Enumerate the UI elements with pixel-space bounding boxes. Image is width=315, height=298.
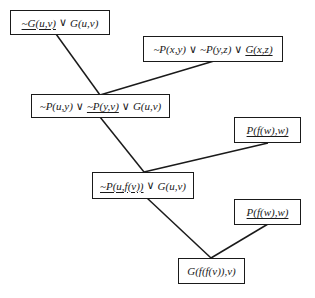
clause-literal: ~P(u,y) [40, 100, 73, 112]
clause-node-2: ~P(x,y) ∨ ~P(y,z) ∨ G(x,z) [143, 36, 283, 62]
or-operator: ∨ [144, 179, 158, 192]
clause-literal: G(f(f(v)),v) [187, 265, 236, 277]
clause-literal: G(u,v) [70, 17, 98, 29]
clause-literal: ~P(x,y) [153, 43, 186, 55]
clause-literal: ~P(u,f(v)) [100, 180, 144, 192]
clause-literal: P(f(w),w) [247, 206, 289, 218]
clause-literal: G(u,v) [133, 100, 161, 112]
edge-n3-n5 [100, 117, 144, 172]
edge-n1-n3 [56, 34, 100, 95]
edge-n2-n3 [100, 61, 214, 95]
clause-node-1: ~G(u,v) ∨ G(u,v) [10, 10, 110, 35]
or-operator: ∨ [186, 43, 200, 56]
clause-literal: ~P(y,v) [87, 100, 119, 112]
or-operator: ∨ [119, 100, 133, 113]
clause-literal: G(u,v) [158, 180, 186, 192]
clause-node-5: ~P(u,f(v)) ∨ G(u,v) [92, 172, 194, 199]
clause-node-4: P(f(w),w) [234, 117, 301, 143]
or-operator: ∨ [73, 100, 87, 113]
or-operator: ∨ [56, 16, 70, 29]
clause-literal: ~G(u,v) [22, 17, 56, 29]
clause-literal: G(x,z) [245, 43, 272, 55]
edge-n5-n7 [147, 198, 211, 258]
clause-node-7-result: G(f(f(v)),v) [178, 258, 245, 284]
clause-literal: P(f(w),w) [247, 124, 289, 136]
edge-n6-n7 [211, 224, 268, 258]
clause-node-3: ~P(u,y) ∨ ~P(y,v) ∨ G(u,v) [31, 94, 170, 118]
or-operator: ∨ [231, 43, 245, 56]
edge-n4-n5 [144, 143, 268, 172]
clause-literal: ~P(y,z) [200, 43, 231, 55]
clause-node-6: P(f(w),w) [234, 199, 301, 225]
